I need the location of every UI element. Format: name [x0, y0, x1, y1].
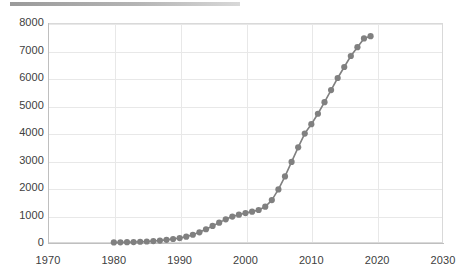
gridline-h [49, 79, 442, 80]
y-tick-label: 6000 [0, 72, 44, 83]
gridline-h [49, 217, 442, 218]
gridline-v [378, 24, 379, 242]
gridline-h [49, 24, 442, 25]
y-tick-label: 4000 [0, 127, 44, 138]
y-tick-label: 3000 [0, 155, 44, 166]
x-tick-label: 2010 [281, 255, 341, 266]
chart-container: 010002000300040005000600070008000 197019… [0, 0, 464, 279]
x-tick-label: 1970 [18, 255, 78, 266]
y-tick-label: 5000 [0, 100, 44, 111]
gridline-h [49, 134, 442, 135]
x-axis-line [48, 243, 444, 244]
y-tick-label: 1000 [0, 210, 44, 221]
gridline-v [115, 24, 116, 242]
y-tick-label: 8000 [0, 17, 44, 28]
x-tick-label: 1990 [150, 255, 210, 266]
gridline-v [312, 24, 313, 242]
x-tick-label: 2020 [347, 255, 407, 266]
y-tick-label: 7000 [0, 45, 44, 56]
x-tick-label: 2030 [413, 255, 464, 266]
x-tick-label: 2000 [216, 255, 276, 266]
gridline-h [49, 162, 442, 163]
y-axis-tick-labels: 010002000300040005000600070008000 [0, 0, 44, 279]
x-tick-label: 1980 [84, 255, 144, 266]
y-tick-label: 2000 [0, 182, 44, 193]
plot-area [48, 23, 443, 243]
gridline-h [49, 189, 442, 190]
top-header-bar [10, 2, 240, 6]
gridline-h [49, 107, 442, 108]
gridline-v [247, 24, 248, 242]
y-axis-line [48, 23, 49, 244]
gridline-v [181, 24, 182, 242]
gridline-h [49, 52, 442, 53]
y-tick-label: 0 [0, 237, 44, 248]
